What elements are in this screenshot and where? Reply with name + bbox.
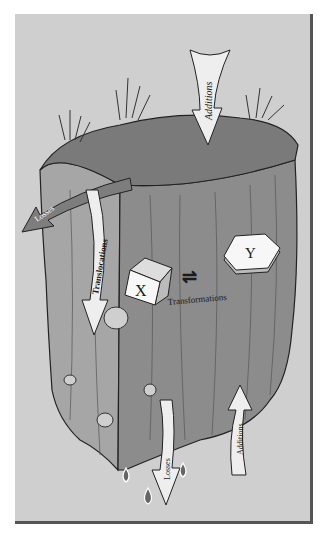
- block-x-label: X: [135, 282, 147, 299]
- additions-top-label: Additions: [203, 82, 214, 121]
- equilibrium-icon: ⇌: [182, 267, 197, 287]
- soil-processes-diagram: Additions Losses Translocations X ⇌ Y Tr…: [0, 0, 331, 542]
- block-y-label: Y: [245, 245, 256, 261]
- additions-bottom-label: Additions: [236, 423, 245, 455]
- soil-block-front-face: [118, 160, 297, 470]
- losses-bottom-label: Losses: [163, 458, 172, 480]
